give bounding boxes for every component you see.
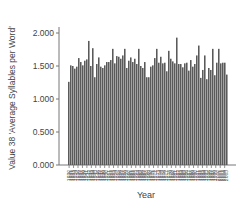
bar (172, 61, 174, 165)
bar (70, 65, 72, 165)
bar (134, 59, 136, 165)
bar (190, 60, 192, 165)
bar (204, 55, 206, 165)
bar (178, 64, 180, 165)
y-tick-label: 1.500 (33, 61, 55, 71)
chart-canvas: 0.0000.5001.0001.5002.000193019311933193… (0, 0, 245, 208)
bar (94, 77, 96, 165)
bar (76, 67, 78, 165)
bar (124, 49, 126, 165)
y-tick-label: 0.500 (33, 127, 55, 137)
bar (182, 67, 184, 165)
bar (96, 64, 98, 165)
bar (128, 61, 130, 165)
bar (174, 63, 176, 165)
bar (88, 41, 90, 165)
bar-chart: 0.0000.5001.0001.5002.000193019311933193… (0, 0, 245, 208)
bar (118, 57, 120, 165)
bar (130, 57, 132, 165)
bar (160, 57, 162, 165)
bar (110, 60, 112, 165)
bar (188, 71, 190, 165)
bar (68, 82, 70, 165)
bar (112, 49, 114, 165)
bar (216, 63, 218, 165)
y-tick-label: 2.000 (33, 28, 55, 38)
bar (142, 68, 144, 165)
bar (148, 77, 150, 165)
bar (202, 70, 204, 165)
bar (78, 58, 80, 165)
bar (158, 63, 160, 165)
bar (102, 68, 104, 165)
bar (200, 78, 202, 165)
bar (226, 75, 228, 165)
bar (184, 63, 186, 165)
bar (120, 59, 122, 165)
bar (154, 58, 156, 165)
bar (220, 63, 222, 165)
y-axis-title: Value 38 'Average Syllables per Word' (7, 26, 17, 170)
bar (114, 63, 116, 165)
bar (176, 38, 178, 165)
bar (218, 49, 220, 165)
bar (116, 56, 118, 165)
bar (136, 64, 138, 165)
bar (106, 62, 108, 165)
bar (194, 64, 196, 165)
bar (186, 63, 188, 165)
bar (164, 63, 166, 165)
bar (146, 77, 148, 165)
x-tick-label: 2005 (223, 170, 229, 181)
bar (222, 63, 224, 165)
bar (156, 49, 158, 165)
bar (122, 55, 124, 165)
bar (74, 69, 76, 165)
y-tick-label: 1.000 (33, 94, 55, 104)
bar (170, 59, 172, 165)
bar (92, 48, 94, 165)
bar (168, 51, 170, 165)
bar (198, 46, 200, 165)
bar (140, 66, 142, 165)
bar (214, 75, 216, 165)
bar (108, 62, 110, 165)
bar (212, 49, 214, 165)
bar (104, 65, 106, 165)
bar (98, 57, 100, 165)
bar (84, 61, 86, 165)
x-axis-title: Year (137, 190, 155, 200)
bar (192, 67, 194, 165)
bar (196, 55, 198, 165)
bar (180, 64, 182, 165)
bar (86, 59, 88, 165)
bar (132, 62, 134, 165)
bar (208, 68, 210, 165)
bar (150, 67, 152, 165)
bar (138, 49, 140, 165)
bar (210, 70, 212, 165)
bar (206, 79, 208, 165)
bar (224, 63, 226, 165)
bar (80, 62, 82, 165)
bar (144, 62, 146, 165)
bar (126, 68, 128, 165)
bar (72, 66, 74, 165)
y-tick-label: 0.000 (33, 160, 55, 170)
bar (162, 63, 164, 165)
bar (152, 65, 154, 165)
bar (90, 66, 92, 165)
bar (82, 65, 84, 165)
bar (166, 71, 168, 165)
bar (100, 67, 102, 165)
